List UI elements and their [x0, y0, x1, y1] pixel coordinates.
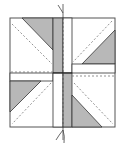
fold-line-top-tail	[58, 4, 63, 18]
bottom-left-horizontal-band	[10, 73, 53, 81]
top-vertical-white-strip	[63, 18, 72, 73]
quilt-diagram	[0, 0, 122, 148]
top-right-horizontal-band	[72, 64, 115, 73]
fold-line-bottom-tail	[56, 127, 64, 143]
top-vertical-gray-strip	[53, 18, 63, 73]
bottom-vertical-white-strip	[53, 73, 63, 127]
quilt-block-svg	[0, 0, 122, 148]
bottom-vertical-gray-strip	[63, 73, 72, 127]
